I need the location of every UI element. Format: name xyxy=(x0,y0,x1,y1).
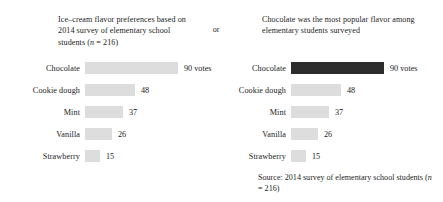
bar-label-strawberry: Strawberry xyxy=(0,152,80,161)
bar-label-vanilla: Vanilla xyxy=(0,130,80,139)
bar-value-vanilla: 26 xyxy=(324,130,332,139)
chart-row: Strawberry 15 xyxy=(227,145,443,167)
panel-before: Ice–cream flavor preferences based on 20… xyxy=(0,0,213,202)
bar-label-strawberry: Strawberry xyxy=(227,152,286,161)
bar-label-cookie-dough: Cookie dough xyxy=(0,86,80,95)
chart-row: Vanilla 26 xyxy=(0,123,213,145)
chart-row: Cookie dough 48 xyxy=(227,79,443,101)
panel-before-title-line-1: Ice–cream flavor preferences based on xyxy=(58,15,186,24)
chart-row: Chocolate 90 votes xyxy=(227,57,443,79)
bar-value-chocolate: 90 votes xyxy=(390,64,418,73)
chart-row: Chocolate 90 votes xyxy=(0,57,213,79)
panel-before-title-line-3: students (n = 216) xyxy=(58,38,118,47)
bar-track: 26 xyxy=(80,128,213,140)
bar-label-cookie-dough: Cookie dough xyxy=(227,86,286,95)
figure-canvas: Ice–cream flavor preferences based on 20… xyxy=(0,0,443,202)
chart-row: Vanilla 26 xyxy=(227,123,443,145)
bar-chocolate xyxy=(85,62,178,74)
bar-value-mint: 37 xyxy=(129,108,137,117)
bar-track: 37 xyxy=(286,106,443,118)
chart-row: Mint 37 xyxy=(227,101,443,123)
bar-track: 48 xyxy=(80,84,213,96)
bar-cookie-dough xyxy=(85,84,135,96)
bar-value-chocolate: 90 votes xyxy=(184,64,212,73)
bar-track: 37 xyxy=(80,106,213,118)
chart-row: Strawberry 15 xyxy=(0,145,213,167)
or-connector-label: or xyxy=(205,25,227,34)
bar-strawberry xyxy=(291,150,306,162)
bar-value-strawberry: 15 xyxy=(106,152,114,161)
bar-mint xyxy=(85,106,123,118)
bar-vanilla xyxy=(291,128,318,140)
sample-size-symbol: n xyxy=(90,38,94,47)
bar-track: 26 xyxy=(286,128,443,140)
bar-mint xyxy=(291,106,329,118)
panel-before-title-line-2: 2014 survey of elementary school xyxy=(58,26,170,35)
bar-value-strawberry: 15 xyxy=(312,152,320,161)
panel-after-title: Chocolate was the most popular flavor am… xyxy=(262,14,430,37)
chart-after: Chocolate 90 votes Cookie dough 48 Mint … xyxy=(227,57,443,167)
bar-label-mint: Mint xyxy=(227,108,286,117)
bar-strawberry xyxy=(85,150,100,162)
bar-track: 15 xyxy=(286,150,443,162)
bar-label-chocolate: Chocolate xyxy=(0,64,80,73)
panel-before-title: Ice–cream flavor preferences based on 20… xyxy=(58,14,198,48)
panel-after: Chocolate was the most popular flavor am… xyxy=(227,0,443,202)
bar-chocolate-highlighted xyxy=(291,62,384,74)
bar-label-chocolate: Chocolate xyxy=(227,64,286,73)
sample-size-symbol: n xyxy=(428,173,432,182)
bar-value-cookie-dough: 48 xyxy=(347,86,355,95)
chart-row: Cookie dough 48 xyxy=(0,79,213,101)
bar-value-vanilla: 26 xyxy=(118,130,126,139)
bar-track: 15 xyxy=(80,150,213,162)
source-note-line-1: Source: 2014 survey of elementary school xyxy=(258,173,394,182)
bar-label-vanilla: Vanilla xyxy=(227,130,286,139)
source-note: Source: 2014 survey of elementary school… xyxy=(258,172,436,195)
bar-vanilla xyxy=(85,128,112,140)
bar-track: 48 xyxy=(286,84,443,96)
bar-value-cookie-dough: 48 xyxy=(141,86,149,95)
bar-track: 90 votes xyxy=(286,62,443,74)
bar-label-mint: Mint xyxy=(0,108,80,117)
panel-after-title-line-1: Chocolate was the most popular flavor xyxy=(262,15,390,24)
bar-cookie-dough xyxy=(291,84,341,96)
bar-value-mint: 37 xyxy=(335,108,343,117)
chart-row: Mint 37 xyxy=(0,101,213,123)
bar-track: 90 votes xyxy=(80,62,213,74)
chart-before: Chocolate 90 votes Cookie dough 48 Mint … xyxy=(0,57,213,167)
